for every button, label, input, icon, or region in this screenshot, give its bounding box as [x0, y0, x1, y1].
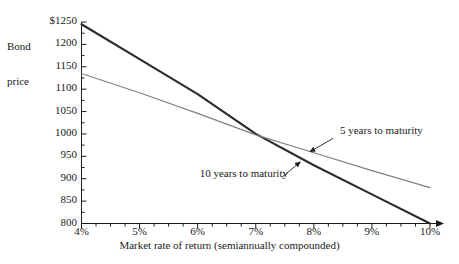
y-tick-label: 1000 [24, 127, 77, 139]
annotation-label: 10 years to maturity [200, 168, 288, 180]
x-tick-label: 4% [62, 226, 102, 238]
y-tick-label: 850 [24, 194, 77, 206]
annotation-arrow [310, 138, 333, 151]
annotation-label: 5 years to maturity [340, 125, 423, 137]
y-tick-label: 900 [24, 172, 77, 184]
x-tick-label: 6% [178, 226, 218, 238]
y-tick-label: 950 [24, 149, 77, 161]
x-tick-label: 10% [410, 226, 450, 238]
y-axis-title-line1: Bond [7, 41, 51, 53]
x-tick-label: 9% [352, 226, 392, 238]
x-tick-label: 7% [236, 226, 276, 238]
y-axis-title: Bond price [7, 17, 51, 112]
bond-price-chart-figure: 80085090095010001050110011501200$1250 4%… [0, 0, 459, 264]
x-tick-label: 5% [120, 226, 160, 238]
axis-lines [81, 22, 443, 224]
x-axis-title: Market rate of return (semiannually comp… [0, 240, 459, 252]
y-axis-title-line2: price [7, 76, 51, 88]
x-tick-label: 8% [294, 226, 334, 238]
